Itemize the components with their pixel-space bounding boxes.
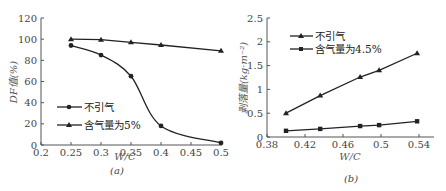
chart-b-y-label: 剥落量(kg·m⁻²) bbox=[238, 42, 249, 114]
chart-b-x-label: W/C bbox=[339, 151, 361, 162]
circle-marker-icon bbox=[219, 140, 224, 145]
chart-a-legend-label-1: 不引气 bbox=[84, 101, 115, 113]
chart-b-legend: 不引气 含气量为4.5% bbox=[290, 30, 382, 55]
y-tick-label: 2.5 bbox=[247, 13, 263, 24]
y-tick-label: 100 bbox=[18, 34, 37, 45]
chart-a-x-label: W/C bbox=[114, 151, 136, 162]
circle-marker-icon bbox=[67, 105, 72, 110]
x-tick-label: 0.54 bbox=[408, 139, 430, 150]
circle-marker-icon bbox=[99, 53, 104, 58]
y-tick-label: 40 bbox=[24, 97, 37, 108]
x-tick-label: 0.38 bbox=[256, 139, 278, 150]
y-tick-label: 1.5 bbox=[247, 60, 263, 71]
chart-a: 020406080100120 0.20.250.30.350.40.450.5… bbox=[8, 13, 229, 177]
chart-b: 00.511.522.5 0.380.420.460.50.54 不引气 含气量… bbox=[238, 13, 434, 185]
chart-b-series bbox=[283, 50, 420, 133]
chart-a-legend: 不引气 含气量为5% bbox=[57, 101, 141, 131]
y-tick-label: 60 bbox=[24, 76, 37, 87]
chart-a-y-label: DF值(%) bbox=[8, 61, 19, 104]
x-tick-label: 0.46 bbox=[332, 139, 354, 150]
series-line bbox=[286, 53, 417, 113]
circle-marker-icon bbox=[159, 124, 164, 129]
x-tick-label: 0.5 bbox=[213, 147, 229, 158]
chart-b-legend-label-2: 含气量为4.5% bbox=[315, 43, 382, 55]
x-tick-label: 0.2 bbox=[33, 147, 49, 158]
triangle-marker-icon bbox=[414, 50, 420, 55]
y-tick-label: 20 bbox=[24, 118, 37, 129]
chart-a-legend-label-2: 含气量为5% bbox=[84, 119, 141, 131]
circle-marker-icon bbox=[129, 74, 134, 79]
square-marker-icon bbox=[358, 124, 362, 128]
y-tick-label: 1 bbox=[257, 84, 263, 95]
y-tick-label: 0.5 bbox=[247, 108, 263, 119]
y-tick-label: 120 bbox=[18, 13, 37, 24]
x-tick-label: 0.45 bbox=[180, 147, 202, 158]
chart-b-legend-label-1: 不引气 bbox=[315, 30, 346, 42]
x-tick-label: 0.42 bbox=[294, 139, 316, 150]
chart-b-caption: (b) bbox=[344, 173, 358, 184]
y-tick-label: 80 bbox=[24, 55, 37, 66]
figure: 020406080100120 0.20.250.30.350.40.450.5… bbox=[0, 0, 446, 191]
series-line bbox=[286, 121, 417, 131]
square-marker-icon bbox=[284, 129, 288, 133]
x-tick-label: 0.5 bbox=[373, 139, 389, 150]
circle-marker-icon bbox=[69, 43, 74, 48]
square-marker-icon bbox=[377, 123, 381, 127]
x-tick-label: 0.3 bbox=[93, 147, 109, 158]
y-tick-label: 2 bbox=[257, 36, 263, 47]
square-marker-icon bbox=[415, 119, 419, 123]
square-marker-icon bbox=[318, 127, 322, 131]
x-tick-label: 0.4 bbox=[153, 147, 169, 158]
x-tick-label: 0.25 bbox=[60, 147, 82, 158]
chart-b-x-ticks: 0.380.420.460.50.54 bbox=[256, 134, 430, 150]
chart-a-caption: (a) bbox=[110, 165, 124, 176]
chart-a-y-ticks: 020406080100120 bbox=[18, 13, 44, 151]
series-line bbox=[71, 39, 221, 51]
square-marker-icon bbox=[299, 47, 303, 51]
